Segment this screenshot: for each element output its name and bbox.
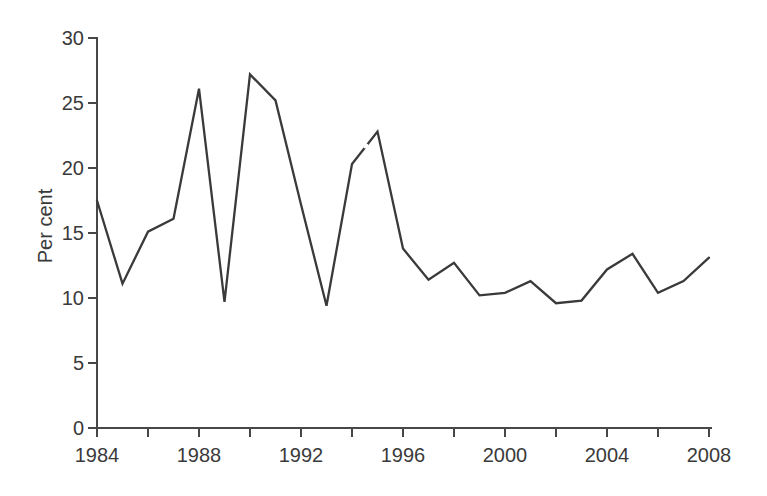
y-tick-label: 5 xyxy=(73,352,84,374)
x-tick-label: 1996 xyxy=(381,444,426,466)
y-axis-title: Per cent xyxy=(34,188,56,263)
y-tick-label: 0 xyxy=(73,417,84,439)
x-tick-label: 1992 xyxy=(279,444,324,466)
y-tick-label: 25 xyxy=(62,92,84,114)
chart-figure: 051015202530 198419881992199620002004200… xyxy=(0,0,767,496)
x-tick-label: 2008 xyxy=(687,444,732,466)
x-tick-label: 2004 xyxy=(585,444,630,466)
x-tick-label: 1988 xyxy=(177,444,222,466)
x-tick-label: 2000 xyxy=(483,444,528,466)
y-tick-label: 20 xyxy=(62,157,84,179)
y-axis-tick-labels: 051015202530 xyxy=(62,27,84,439)
data-line xyxy=(97,74,709,305)
y-tick-label: 10 xyxy=(62,287,84,309)
line-chart: 051015202530 198419881992199620002004200… xyxy=(0,0,767,496)
data-series xyxy=(97,74,709,305)
scan-gap-artifact xyxy=(363,143,368,148)
axis-spine xyxy=(97,37,712,428)
y-axis-ticks xyxy=(88,38,97,428)
x-axis-ticks xyxy=(97,428,709,437)
y-tick-label: 15 xyxy=(62,222,84,244)
y-tick-label: 30 xyxy=(62,27,84,49)
x-tick-label: 1984 xyxy=(75,444,120,466)
x-axis-tick-labels: 1984198819921996200020042008 xyxy=(75,444,732,466)
